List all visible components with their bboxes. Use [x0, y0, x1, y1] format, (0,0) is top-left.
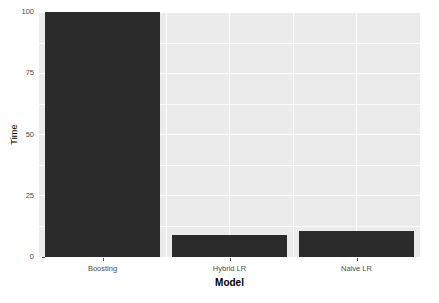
bar-chart: Time 0255075100 BoostingHybrid LRNaive L…	[0, 0, 439, 303]
bar-naive-lr	[299, 231, 413, 257]
x-tick-mark	[357, 258, 358, 261]
gridline-major-vertical	[356, 12, 357, 257]
y-tick-label: 50	[10, 131, 34, 139]
y-tick-label: 0	[10, 253, 34, 261]
x-tick-mark	[103, 258, 104, 261]
y-tick-label: 100	[10, 8, 34, 16]
x-tick-label-naive-lr: Naive LR	[341, 264, 372, 273]
plot-panel	[39, 12, 420, 257]
x-tick-mark	[230, 258, 231, 261]
bar-boosting	[45, 12, 159, 257]
gridline-minor-vertical	[166, 12, 167, 257]
x-tick-label-boosting: Boosting	[88, 264, 117, 273]
gridline-major-vertical	[229, 12, 230, 257]
x-tick-label-hybrid-lr: Hybrid LR	[213, 264, 246, 273]
gridline-minor-vertical	[293, 12, 294, 257]
bar-hybrid-lr	[172, 235, 286, 257]
y-axis-ticks: 0255075100	[8, 0, 34, 303]
x-axis-title: Model	[39, 277, 420, 288]
y-tick-label: 25	[10, 192, 34, 200]
y-tick-mark	[42, 257, 45, 258]
y-tick-label: 75	[10, 69, 34, 77]
